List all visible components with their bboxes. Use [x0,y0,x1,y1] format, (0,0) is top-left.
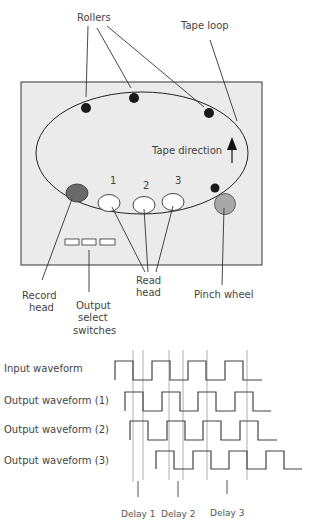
delay-markers [138,480,227,497]
read-head-label-line1: Read [136,275,161,286]
input-waveform [115,361,262,380]
roller-2 [129,93,139,103]
timing-guide-lines [133,350,247,482]
output-select-label-line2: select [78,312,108,323]
delay-3-label: Delay 3 [210,508,244,518]
record-head-label-line1: Record [22,290,57,301]
read-head-number-3: 3 [175,175,181,186]
machine-panel [21,82,262,265]
output-waveform-3 [156,451,302,469]
read-head-number-2: 2 [143,180,149,191]
roller-1 [81,103,91,113]
rollers-label: Rollers [77,12,111,23]
rollers-pointer-2 [97,28,131,88]
delay-2-label: Delay 2 [161,509,195,519]
output-waveform-3-label: Output waveform (3) [4,455,109,466]
roller-4 [211,184,220,193]
roller-3 [204,108,214,118]
output-switch-3 [100,239,115,245]
output-switch-1 [65,239,79,245]
read-head-label-line2: head [136,287,161,298]
delay-1-label: Delay 1 [121,509,155,519]
tape-delay-diagram: Rollers Tape loop Tape direction 1 2 3 R… [0,0,314,525]
output-select-label-line3: switches [73,325,116,336]
read-head-1 [98,195,120,212]
output-select-label-line1: Output [76,300,111,311]
pinch-wheel-label: Pinch wheel [194,289,254,300]
input-waveform-label: Input waveform [4,363,83,374]
read-head-3 [162,194,184,211]
tape-direction-label: Tape direction [151,145,222,156]
output-waveform-1-label: Output waveform (1) [4,395,109,406]
tape-loop-label: Tape loop [180,20,229,31]
output-waveform-2-label: Output waveform (2) [4,424,109,435]
pinch-wheel [215,194,236,215]
output-waveform-1 [125,392,271,411]
record-head-label-line2: head [29,302,54,313]
record-head [66,184,88,202]
output-waveform-2 [130,421,277,440]
output-switch-2 [82,239,96,245]
read-head-number-1: 1 [110,175,116,186]
